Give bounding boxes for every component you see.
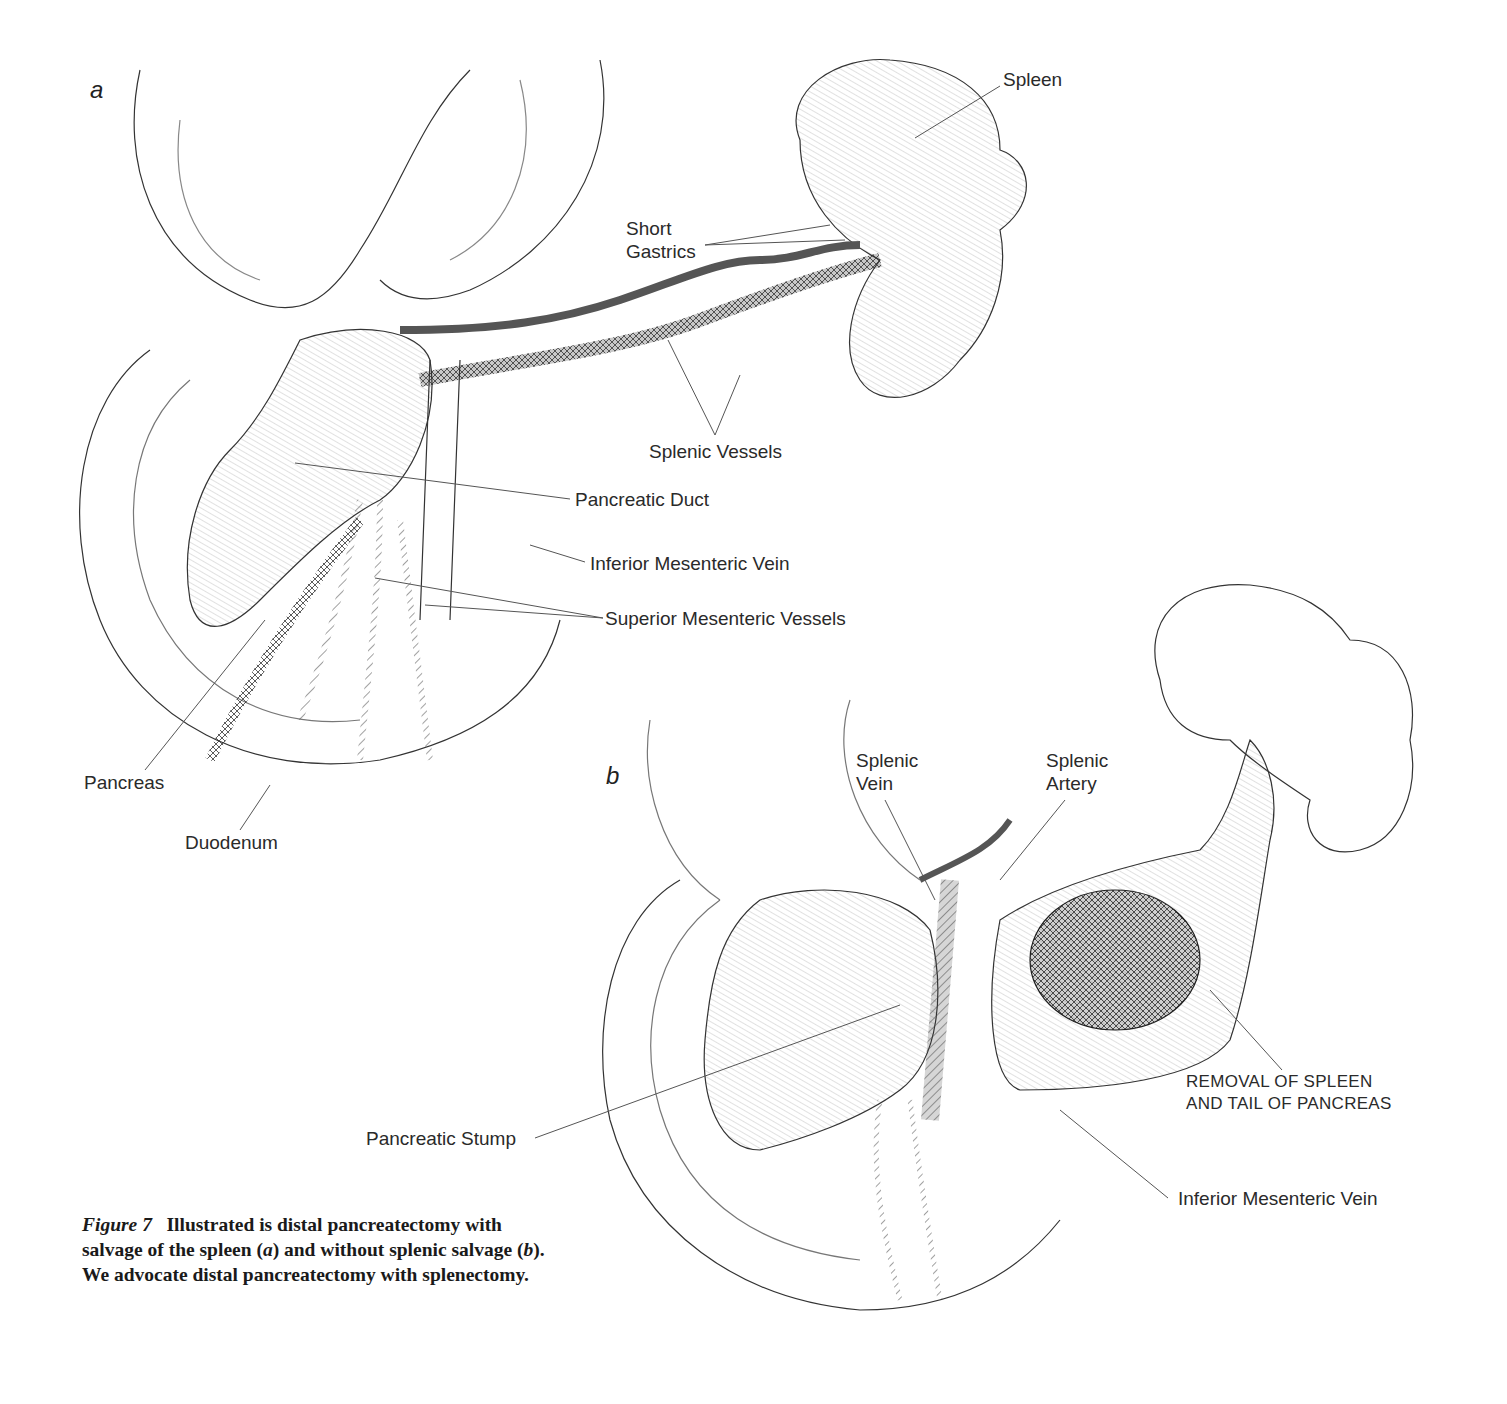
label-splenic-vessels: Splenic Vessels [649, 441, 782, 463]
label-short-gastrics-line1: Short [626, 218, 671, 240]
label-splenic-vein-line2: Vein [856, 773, 893, 795]
panel-label-a: a [90, 76, 103, 104]
label-splenic-artery-line1: Splenic [1046, 750, 1108, 772]
figure-caption: Figure 7 Illustrated is distal pancreate… [82, 1212, 552, 1287]
panel-a-drawing [80, 60, 1027, 764]
label-pancreatic-stump: Pancreatic Stump [366, 1128, 516, 1150]
label-duodenum: Duodenum [185, 832, 278, 854]
caption-figure-label: Figure 7 [82, 1214, 152, 1235]
caption-a: a [263, 1239, 273, 1260]
label-short-gastrics-line2: Gastrics [626, 241, 696, 263]
label-inferior-mesenteric-vein-b: Inferior Mesenteric Vein [1178, 1188, 1378, 1210]
label-pancreas: Pancreas [84, 772, 164, 794]
caption-b: b [523, 1239, 533, 1260]
caption-text-2: ) and without splenic salvage ( [273, 1239, 524, 1260]
label-splenic-vein-line1: Splenic [856, 750, 918, 772]
label-splenic-artery-line2: Artery [1046, 773, 1097, 795]
label-superior-mesenteric-vessels: Superior Mesenteric Vessels [605, 608, 846, 630]
label-removal-line2: AND TAIL OF PANCREAS [1186, 1093, 1392, 1115]
label-spleen: Spleen [1003, 69, 1062, 91]
label-inferior-mesenteric-vein-a: Inferior Mesenteric Vein [590, 553, 790, 575]
label-pancreatic-duct: Pancreatic Duct [575, 489, 709, 511]
panel-label-b: b [606, 762, 619, 790]
label-removal-line1: REMOVAL OF SPLEEN [1186, 1071, 1372, 1093]
